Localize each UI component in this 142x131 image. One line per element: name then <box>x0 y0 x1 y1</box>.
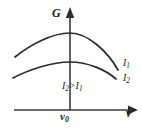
x-axis-label: ν <box>126 107 131 119</box>
inequality-relation-symbol: > <box>69 80 76 91</box>
y-axis-arrowhead <box>66 7 74 18</box>
gain-frequency-chart <box>0 0 142 131</box>
inequality-right-subscript: 1 <box>79 85 83 93</box>
figure-container: G ν ν0 I1 I2 I2>I1 <box>0 0 142 131</box>
lower-gain-curve <box>13 62 116 79</box>
upper-gain-curve <box>15 33 118 70</box>
origin-tick-label: ν0 <box>60 111 69 124</box>
curve-label-i2-subscript: 2 <box>126 77 130 85</box>
origin-tick-subscript: 0 <box>65 115 69 124</box>
y-axis-label: G <box>52 7 61 19</box>
curve-label-i2: I2 <box>123 73 130 85</box>
curve-label-i1: I1 <box>123 58 130 70</box>
inequality-annotation: I2>I1 <box>62 81 83 93</box>
curve-label-i1-subscript: 1 <box>126 62 130 70</box>
